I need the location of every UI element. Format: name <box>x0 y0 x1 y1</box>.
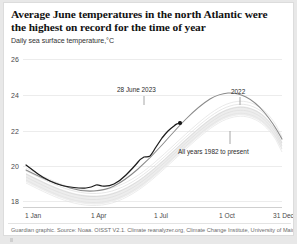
band-line-c <box>26 113 282 202</box>
chart-card: Average June temperatures in the north A… <box>3 2 294 236</box>
current-value-marker <box>178 121 181 124</box>
source-divider <box>8 223 291 224</box>
chart-plot-area: 28 June 2023 2022 All years 1982 to pres… <box>4 49 294 211</box>
y-tick-20: 20 <box>11 163 19 170</box>
y-tick-18: 18 <box>11 198 19 205</box>
page-footer-mark <box>10 238 13 242</box>
x-tick-1-oct: 1 Oct <box>219 212 235 219</box>
y-tick-24: 24 <box>11 92 19 99</box>
x-tick-1-jul: 1 Jul <box>154 212 168 219</box>
series-2023-line <box>26 123 180 188</box>
y-tick-26: 26 <box>11 56 19 63</box>
x-axis-line <box>23 207 282 208</box>
band-fill <box>26 106 282 204</box>
annotation-2022: 2022 <box>231 88 245 95</box>
page-title: Average June temperatures in the north A… <box>11 8 281 33</box>
x-tick-1-apr: 1 Apr <box>91 212 106 219</box>
sea-surface-temperature-chart <box>4 49 294 211</box>
source-credit: Guardian graphic. Source: Noaa. OISST V2… <box>11 227 294 233</box>
x-tick-31-dec: 31 Dec <box>273 212 294 219</box>
x-tick-1-jan: 1 Jan <box>25 212 41 219</box>
annotation-all-years: All years 1982 to present <box>178 148 249 155</box>
chart-subtitle: Daily sea surface temperature,°C <box>11 37 114 45</box>
y-tick-22: 22 <box>11 128 19 135</box>
annotation-28-june-2023: 28 June 2023 <box>117 86 156 93</box>
